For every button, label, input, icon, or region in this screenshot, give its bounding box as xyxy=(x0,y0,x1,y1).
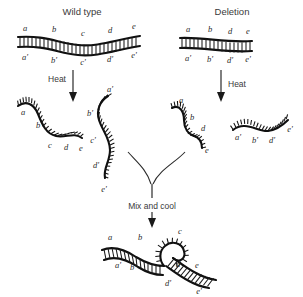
mix-funnel xyxy=(128,152,185,198)
duplex-wild-type: a b c d e a' b' c' d' e' xyxy=(18,21,140,67)
heteroduplex-label-b: b xyxy=(138,232,142,242)
heteroduplex-label-d-prime: d' xyxy=(165,278,171,288)
wt-duplex-label-b-prime: b' xyxy=(51,55,57,65)
step-label-mix-and-cool: Mix and cool xyxy=(128,201,176,211)
heteroduplex-label-b-prime: b' xyxy=(130,262,136,272)
del-duplex-label-a-prime: a' xyxy=(185,53,191,63)
wt-antisense-label-c-prime: c' xyxy=(90,135,96,145)
mix-funnel-left-arm xyxy=(128,152,151,184)
heteroduplex-label-e: e xyxy=(195,260,199,270)
del-duplex-bottom-backbone xyxy=(180,48,252,52)
wt-sense-label-c: c xyxy=(48,140,52,150)
wt-sense-label-e: e xyxy=(79,143,83,153)
heat-arrow-right-head xyxy=(217,92,225,102)
del-sense-label-b: b xyxy=(190,112,194,122)
del-sense-label-d: d xyxy=(201,123,206,133)
wt-antisense-label-b-prime: b' xyxy=(87,108,93,118)
column-header-deletion: Deletion xyxy=(215,6,250,17)
heteroduplex-label-a: a xyxy=(108,232,112,242)
heat-arrow-left-head xyxy=(69,92,77,102)
wt-duplex-bottom-backbone xyxy=(18,46,140,55)
mix-arrow xyxy=(148,212,156,228)
single-strand-wild-type-sense: a b c d e xyxy=(18,97,84,153)
wt-antisense-label-e-prime: e' xyxy=(101,184,107,194)
del-antisense-label-d-prime: d' xyxy=(269,135,275,145)
wt-antisense-label-a-prime: a' xyxy=(107,84,113,94)
single-strand-deletion-antisense: a' b' d' e' xyxy=(231,114,293,145)
mix-arrow-head xyxy=(148,218,156,228)
del-duplex-label-e-prime: e' xyxy=(245,54,251,64)
wt-duplex-label-c-prime: c' xyxy=(80,57,86,67)
single-strand-deletion-sense: a b d e xyxy=(171,95,209,155)
del-duplex-label-d-prime: d' xyxy=(227,55,233,65)
step-label-heat-left: Heat xyxy=(48,74,67,84)
wt-sense-label-b: b xyxy=(36,120,40,130)
wt-duplex-label-d-prime: d' xyxy=(107,54,113,64)
del-antisense-label-b-prime: b' xyxy=(252,135,258,145)
wt-sense-label-a: a xyxy=(21,107,25,117)
wt-duplex-label-d: d xyxy=(108,25,113,35)
del-sense-label-e: e xyxy=(205,145,209,155)
del-sense-label-a: a xyxy=(179,95,183,105)
del-duplex-label-b-prime: b' xyxy=(207,54,213,64)
wt-duplex-label-e: e xyxy=(132,21,136,31)
del-duplex-top-backbone xyxy=(180,38,252,42)
mix-funnel-right-arm xyxy=(153,152,185,184)
del-antisense-teeth xyxy=(231,114,288,131)
wt-duplex-label-c: c xyxy=(81,28,85,38)
step-label-heat-right: Heat xyxy=(228,79,247,89)
wt-duplex-label-a: a xyxy=(23,23,27,33)
column-header-wild-type: Wild type xyxy=(62,6,101,17)
del-duplex-label-b: b xyxy=(208,24,212,34)
del-sense-backbone xyxy=(172,107,202,148)
heat-arrow-left xyxy=(69,70,77,102)
heteroduplex-label-a-prime: a' xyxy=(115,260,121,270)
wt-antisense-label-d-prime: d' xyxy=(93,160,99,170)
wt-duplex-label-e-prime: e' xyxy=(131,50,137,60)
wt-duplex-label-b: b xyxy=(52,24,56,34)
single-strand-wild-type-antisense: a' b' c' d' e' xyxy=(87,84,115,194)
heat-arrow-right xyxy=(217,70,225,102)
del-duplex-label-e: e xyxy=(246,26,250,36)
del-antisense-label-a-prime: a' xyxy=(235,132,241,142)
wt-sense-label-d: d xyxy=(64,142,69,152)
duplex-deletion: a b d e a' b' d' e' xyxy=(180,24,252,65)
del-duplex-label-a: a xyxy=(186,24,190,34)
heteroduplex-label-c: c xyxy=(178,226,182,236)
del-antisense-label-e-prime: e' xyxy=(287,124,293,134)
figure-canvas: Wild type Deletion xyxy=(0,0,303,297)
del-duplex-label-d: d xyxy=(228,26,233,36)
heteroduplex-label-e-prime: e' xyxy=(196,286,202,296)
heteroduplex: a b c d e a' b' d' e' xyxy=(102,226,216,296)
wt-duplex-label-a-prime: a' xyxy=(22,52,28,62)
